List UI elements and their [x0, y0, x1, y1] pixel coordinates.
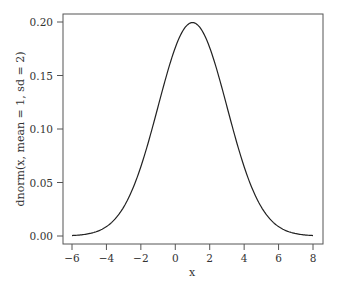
y-tick-label: 0.10: [30, 123, 53, 135]
x-tick-label: −6: [64, 252, 80, 264]
x-tick-label: 2: [206, 252, 213, 264]
x-tick-label: 6: [275, 252, 282, 264]
x-tick-label: −2: [133, 252, 148, 264]
x-axis-label: x: [189, 266, 196, 279]
y-tick-label: 0.00: [30, 230, 53, 242]
x-tick-label: 8: [310, 252, 317, 264]
x-axis: −6−4−202468: [64, 244, 316, 264]
y-tick-label: 0.15: [30, 70, 53, 82]
x-tick-label: −4: [99, 252, 115, 264]
y-tick-label: 0.05: [30, 177, 53, 189]
x-tick-label: 4: [241, 252, 248, 264]
y-axis-label: dnorm(x, mean = 1, sd = 2): [14, 52, 27, 207]
chart: 0.000.050.100.150.20 −6−4−202468 x dnorm…: [0, 0, 340, 289]
y-tick-label: 0.20: [30, 16, 53, 28]
x-tick-label: 0: [172, 252, 179, 264]
plot-frame: [63, 14, 323, 244]
y-axis: 0.000.050.100.150.20: [30, 16, 63, 242]
density-curve: [72, 23, 313, 236]
